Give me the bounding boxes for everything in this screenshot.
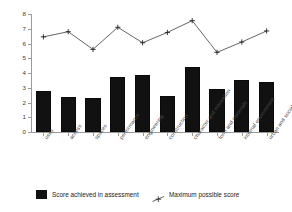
- line-path: [43, 21, 266, 53]
- y-axis-tick-label: 4: [12, 70, 26, 76]
- plus-marker-icon: [152, 190, 165, 199]
- chart-legend: Score achieved in assessment Maximum pos…: [0, 190, 292, 206]
- plus-marker-icon: [66, 29, 71, 34]
- legend-line-label: Maximum possible score: [169, 190, 239, 199]
- y-axis-tick-label: 3: [12, 85, 26, 91]
- y-axis-tick-label: 8: [12, 11, 26, 17]
- plus-marker-icon: [165, 30, 170, 35]
- legend-item-bar: Score achieved in assessment: [36, 190, 139, 199]
- legend-bar-swatch: [36, 190, 47, 199]
- y-axis-tick: [28, 132, 31, 133]
- y-axis-tick-label: 2: [12, 100, 26, 106]
- y-axis-tick-label: 7: [12, 26, 26, 32]
- plus-marker-icon: [41, 34, 46, 39]
- y-axis-tick-label: 1: [12, 114, 26, 120]
- legend-item-line: Maximum possible score: [152, 190, 239, 199]
- y-axis-tick-label: 0: [12, 129, 26, 135]
- y-axis-tick-label: 6: [12, 41, 26, 47]
- y-axis-tick-label: 5: [12, 55, 26, 61]
- plus-marker-icon: [264, 28, 269, 33]
- line-series-layer: [31, 14, 279, 132]
- plus-marker-icon: [140, 40, 145, 45]
- legend-bar-label: Score achieved in assessment: [52, 190, 139, 199]
- chart-container: 012345678 usesaccessspacesperformanceeng…: [0, 0, 292, 212]
- plus-marker-icon: [239, 39, 244, 44]
